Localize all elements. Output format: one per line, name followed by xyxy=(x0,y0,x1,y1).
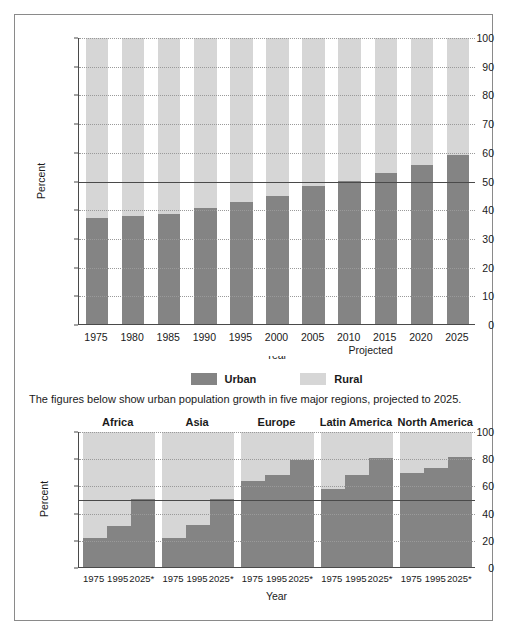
top-y-tickmark-30 xyxy=(74,238,78,239)
legend-item-rural: Rural xyxy=(300,373,362,385)
bottom-bar-africa-2025 xyxy=(131,432,155,567)
segment-rural xyxy=(131,432,155,499)
top-bar-1975-rural xyxy=(86,38,108,218)
top-x-tick-2025: 2025 xyxy=(445,331,468,343)
bottom-y-tick-40: 40 xyxy=(438,508,494,520)
top-bar-2010-urban xyxy=(338,181,360,325)
segment-urban xyxy=(241,481,265,567)
bottom-x-tick-latin-america-1995: 1995 xyxy=(345,573,366,584)
legend-item-urban: Urban xyxy=(191,373,257,385)
segment-urban xyxy=(162,538,186,567)
bottom-x-tick-asia-1975: 1975 xyxy=(162,573,183,584)
bottom-x-tick-asia-2025: 2025* xyxy=(209,573,234,584)
bottom-y-tickmark-40 xyxy=(74,513,78,514)
figure-caption: The figures below show urban population … xyxy=(29,393,481,405)
segment-rural xyxy=(83,432,107,538)
top-bar-1980 xyxy=(122,38,144,324)
top-bar-1985-rural xyxy=(158,38,180,214)
top-chart-y-axis-label: Percent xyxy=(34,37,46,324)
top-y-tickmark-80 xyxy=(74,95,78,96)
bottom-y-tickmark-60 xyxy=(74,486,78,487)
bottom-x-tick-north-america-1995: 1995 xyxy=(425,573,446,584)
top-y-tickmark-10 xyxy=(74,296,78,297)
top-bar-1990 xyxy=(194,38,216,324)
top-bar-1980-rural xyxy=(122,38,144,216)
segment-rural xyxy=(265,432,289,475)
top-bar-1995-urban xyxy=(230,202,252,324)
region-title-asia: Asia xyxy=(185,416,208,428)
top-y-tickmark-0 xyxy=(74,325,78,326)
segment-urban xyxy=(186,525,210,567)
top-y-tickmark-100 xyxy=(74,38,78,39)
top-y-tickmark-20 xyxy=(74,267,78,268)
segment-urban xyxy=(400,473,424,567)
top-y-tick-80: 80 xyxy=(438,89,494,101)
bottom-x-tick-latin-america-2025: 2025* xyxy=(368,573,393,584)
legend-label-urban: Urban xyxy=(225,373,257,385)
top-y-tick-70: 70 xyxy=(438,118,494,130)
bottom-bar-north-america-1975 xyxy=(400,432,424,567)
legend: UrbanRural xyxy=(78,373,475,385)
bottom-y-tick-20: 20 xyxy=(438,535,494,547)
top-bar-2005-urban xyxy=(302,186,324,324)
segment-rural xyxy=(186,432,210,525)
top-bar-2015 xyxy=(375,38,397,324)
bottom-x-tick-europe-1975: 1975 xyxy=(242,573,263,584)
top-bar-2000 xyxy=(266,38,288,324)
bottom-bar-asia-2025 xyxy=(210,432,234,567)
bottom-x-tick-europe-2025: 2025* xyxy=(288,573,313,584)
segment-rural xyxy=(400,432,424,473)
top-x-tick-1975: 1975 xyxy=(84,331,107,343)
segment-rural xyxy=(210,432,234,499)
top-bar-1980-urban xyxy=(122,216,144,324)
bottom-x-tick-europe-1995: 1995 xyxy=(266,573,287,584)
segment-urban xyxy=(369,458,393,567)
top-y-tick-30: 30 xyxy=(438,233,494,245)
bottom-y-tickmark-100 xyxy=(74,432,78,433)
top-y-tick-50: 50 xyxy=(438,176,494,188)
top-y-tick-20: 20 xyxy=(438,262,494,274)
top-bar-1985 xyxy=(158,38,180,324)
bottom-chart-regions: 020406080100197519952025*Africa197519952… xyxy=(15,412,494,617)
legend-swatch-rural xyxy=(300,373,326,385)
top-bar-2020-urban xyxy=(411,165,433,324)
segment-urban xyxy=(265,475,289,567)
top-x-tick-2000: 2000 xyxy=(265,331,288,343)
bottom-chart-x-axis-label: Year xyxy=(78,590,475,602)
top-x-tick-2005: 2005 xyxy=(301,331,324,343)
bottom-x-tick-latin-america-1975: 1975 xyxy=(321,573,342,584)
top-bar-2000-rural xyxy=(266,38,288,196)
segment-rural xyxy=(321,432,345,489)
segment-rural xyxy=(162,432,186,538)
bottom-bar-europe-1995 xyxy=(265,432,289,567)
bottom-bar-africa-1995 xyxy=(107,432,131,567)
top-x-tick-2020: 2020 xyxy=(409,331,432,343)
region-title-europe: Europe xyxy=(258,416,296,428)
top-bar-2020-rural xyxy=(411,38,433,165)
bottom-bar-asia-1995 xyxy=(186,432,210,567)
top-bar-2005 xyxy=(302,38,324,324)
bottom-x-tick-north-america-1975: 1975 xyxy=(401,573,422,584)
top-bar-1995-rural xyxy=(230,38,252,202)
segment-urban xyxy=(345,475,369,567)
top-x-tick-2015: 2015 xyxy=(373,331,396,343)
segment-rural xyxy=(290,432,314,460)
top-bar-2010-rural xyxy=(338,38,360,181)
top-y-tick-60: 60 xyxy=(438,147,494,159)
top-y-tick-40: 40 xyxy=(438,204,494,216)
top-chart-world-urban-rural: 0102030405060708090100197519801985199019… xyxy=(15,15,494,395)
region-title-north-america: North America xyxy=(398,416,473,428)
bottom-bar-africa-1975 xyxy=(83,432,107,567)
top-bar-2010 xyxy=(338,38,360,324)
top-y-tickmark-90 xyxy=(74,66,78,67)
top-x-tick-2010: 2010 xyxy=(337,331,360,343)
top-bar-1985-urban xyxy=(158,214,180,324)
bottom-y-tickmark-20 xyxy=(74,540,78,541)
bottom-y-tickmark-0 xyxy=(74,568,78,569)
top-bar-1990-urban xyxy=(194,208,216,324)
top-y-tickmark-50 xyxy=(74,181,78,182)
top-y-tick-10: 10 xyxy=(438,290,494,302)
top-y-tickmark-40 xyxy=(74,210,78,211)
bottom-x-tick-north-america-2025: 2025* xyxy=(447,573,472,584)
bottom-y-tick-60: 60 xyxy=(438,480,494,492)
